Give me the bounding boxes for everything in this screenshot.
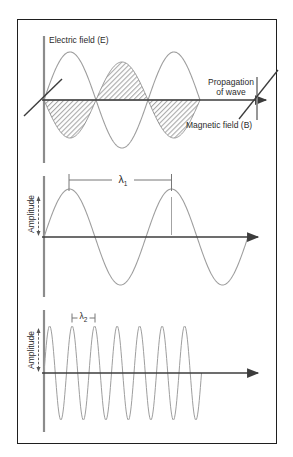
magnetic-field-label: Magnetic field (B) [186, 121, 252, 131]
wave2-amplitude-label: Amplitude [26, 331, 36, 369]
lambda1-subscript: 1 [124, 180, 128, 187]
lambda2-label: λ2 [80, 311, 88, 323]
propagation-label: Propagation of wave [202, 78, 260, 97]
em-wave-diagram: Electric field (E) Propagation of wave M… [0, 0, 293, 457]
electric-field-label: Electric field (E) [49, 36, 109, 46]
lambda1-label: λ1 [119, 173, 128, 187]
propagation-label-line2: of wave [202, 88, 260, 98]
wave1-amplitude-label: Amplitude [26, 195, 36, 233]
diagram-drawing [0, 0, 293, 457]
lambda2-subscript: 2 [84, 316, 88, 323]
